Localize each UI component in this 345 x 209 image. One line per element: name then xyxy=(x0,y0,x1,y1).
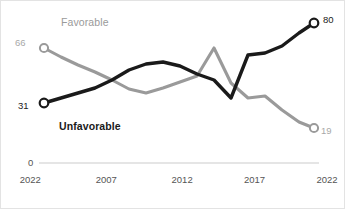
series-label-unfavorable: Unfavorable xyxy=(59,120,121,132)
line-chart-card: Favorable Unfavorable 66 19 31 80 0 2022… xyxy=(0,0,345,209)
marker-favorable-start xyxy=(40,44,48,52)
endpoint-value-favorable-start: 66 xyxy=(15,37,26,48)
x-axis-tick: 2007 xyxy=(96,174,117,185)
endpoint-value-unfavorable-start: 31 xyxy=(18,100,29,111)
endpoint-value-unfavorable-end: 80 xyxy=(323,14,334,25)
x-axis-tick-labels: 20222007201220172022 xyxy=(1,174,345,190)
series-line-unfavorable xyxy=(44,23,314,103)
endpoint-value-favorable-end: 19 xyxy=(321,125,332,136)
x-axis-tick: 2022 xyxy=(316,174,337,185)
series-label-favorable: Favorable xyxy=(61,16,109,28)
x-axis-tick: 2022 xyxy=(20,174,41,185)
marker-unfavorable-end xyxy=(310,19,319,28)
x-axis-tick: 2012 xyxy=(172,174,193,185)
x-axis-tick: 2017 xyxy=(244,174,265,185)
marker-unfavorable-start xyxy=(40,99,49,108)
axis-zero-label: 0 xyxy=(28,157,33,168)
marker-favorable-end xyxy=(310,124,318,132)
series-line-favorable xyxy=(44,48,314,128)
